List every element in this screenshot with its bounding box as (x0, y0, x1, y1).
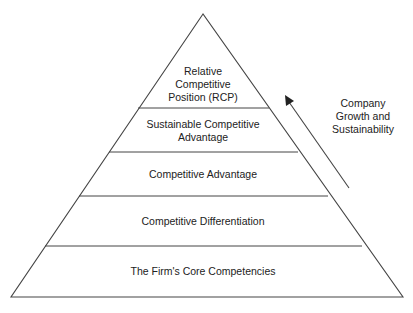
level-1-line-3: Position (RCP) (143, 91, 263, 104)
level-2-line-2: Advantage (113, 131, 293, 144)
level-3-label: Competitive Advantage (103, 168, 303, 181)
level-1-line-2: Competitive (143, 78, 263, 91)
level-5-line-1: The Firm's Core Competencies (63, 265, 343, 278)
arrow-label: Company Growth and Sustainability (313, 97, 413, 136)
level-1-label: Relative Competitive Position (RCP) (143, 65, 263, 104)
level-5-label: The Firm's Core Competencies (63, 265, 343, 278)
level-1-line-1: Relative (143, 65, 263, 78)
arrow-label-line-1: Company (313, 97, 413, 110)
pyramid-outline (11, 14, 403, 297)
level-4-line-1: Competitive Differentiation (83, 215, 323, 228)
arrow-label-line-3: Sustainability (313, 123, 413, 136)
level-4-label: Competitive Differentiation (83, 215, 323, 228)
level-2-line-1: Sustainable Competitive (113, 118, 293, 131)
arrow-label-line-2: Growth and (313, 110, 413, 123)
level-3-line-1: Competitive Advantage (103, 168, 303, 181)
level-2-label: Sustainable Competitive Advantage (113, 118, 293, 144)
